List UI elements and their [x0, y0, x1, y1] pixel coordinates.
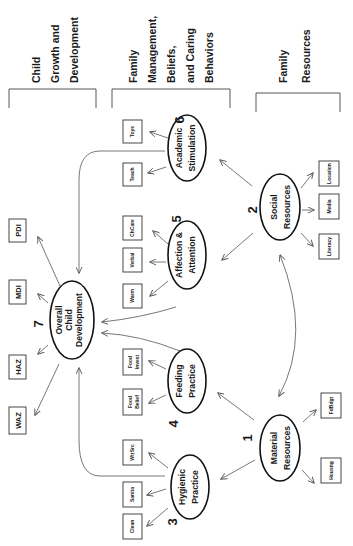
arrow-material-to-housng: [302, 470, 314, 483]
indicator-label: Warm: [129, 289, 135, 303]
indicator-label: ChCare: [129, 219, 135, 237]
indicator-label: Belief: [134, 395, 140, 409]
indicator-box-media: Media: [319, 194, 339, 219]
header-child-growth: Child Growth and Development: [30, 17, 80, 83]
arrow-social-to-location: [301, 173, 313, 188]
arrow-academic-to-overall: [79, 151, 165, 273]
arrow-social-material-bidirectional: [279, 255, 296, 396]
arrow-social-to-affection: [222, 233, 253, 260]
node-feeding-practice: Feeding Practice 4: [166, 349, 206, 428]
indicator-box-housng: Housng: [321, 458, 341, 483]
header-line: Beliefs,: [165, 46, 177, 83]
arrow-hygienic-to-overall: [79, 368, 165, 476]
arrow-affection-to-overall: [102, 307, 176, 322]
header-line: Child: [30, 57, 42, 83]
indicator-label: Teach: [129, 167, 135, 181]
indicator-label: Literacy: [326, 237, 332, 256]
indicator-label: Housng: [328, 461, 334, 480]
outcome-label: MDI: [14, 285, 23, 299]
arrow-feeding-to-food-belief: [149, 395, 166, 403]
node-label: Social: [269, 194, 279, 219]
indicator-box-fdbdgt: FdBdgt: [321, 393, 341, 418]
node-overall-child-development: Overall Child Development 7: [31, 281, 94, 359]
indicator-label: FdBdgt: [328, 396, 334, 414]
indicator-label: Clean: [129, 520, 135, 534]
arrow-overall-to-haz: [38, 345, 48, 354]
indicator-box-literacy: Literacy: [319, 234, 339, 259]
arrow-social-to-academic: [220, 160, 252, 186]
node-number: 1: [240, 434, 255, 441]
arrow-academic-to-teach: [148, 167, 166, 173]
node-label: Stimulation: [187, 125, 197, 172]
header-line: Development: [68, 17, 80, 83]
header-line: and Caring: [184, 28, 196, 83]
bracket-family-management: [112, 89, 230, 108]
indicator-box-wtrsrc: WtrSrc: [123, 440, 142, 465]
node-label: Material: [269, 432, 279, 464]
node-label: Practice: [190, 470, 200, 504]
node-hygienic-practice: Hygienic Practice 3: [165, 455, 209, 526]
arrow-hygienic-to-sanita: [147, 489, 166, 495]
indicator-box-verbal: Verbal: [123, 248, 142, 272]
arrow-material-to-fdbdgt: [303, 410, 316, 422]
indicator-box-location: Location: [319, 161, 339, 186]
indicator-box-food-invest: Food Invest: [123, 349, 142, 375]
indicator-box-toys: Toys: [123, 120, 142, 143]
node-label: Practice: [187, 364, 197, 398]
arrow-hygienic-to-wtrsrc: [149, 453, 168, 468]
node-label: Attention: [187, 236, 197, 274]
node-number: 6: [172, 116, 187, 123]
outcome-label: PDI: [14, 224, 23, 237]
arrow-social-to-literacy: [301, 233, 313, 246]
header-line: Family: [127, 50, 139, 83]
header-family-resources: Family Resources: [277, 29, 312, 83]
header-line: Resources: [300, 29, 312, 83]
outcome-label: HAZ: [14, 359, 23, 375]
header-family-management: Family Management, Beliefs, and Caring B…: [127, 16, 215, 83]
bracket-child: [9, 89, 96, 108]
indicator-label: Food: [127, 396, 133, 408]
node-number: 4: [166, 420, 181, 428]
arrow-overall-to-pdi: [38, 237, 60, 286]
header-line: Behaviors: [203, 32, 215, 83]
indicator-box-teach: Teach: [123, 163, 142, 186]
bracket-family-resources: [256, 93, 340, 112]
arrow-feeding-to-food-invest: [149, 361, 166, 369]
outcome-box-mdi: MDI: [9, 280, 26, 304]
header-line: Growth and: [49, 25, 61, 83]
conceptual-framework-diagram: Child Growth and Development Family Mana…: [0, 0, 353, 546]
node-label: Overall: [54, 305, 64, 334]
indicator-box-warm: Warm: [123, 284, 142, 308]
arrow-material-to-hygienic: [221, 460, 255, 479]
arrow-material-to-feeding: [218, 393, 254, 420]
indicator-label: Verbal: [129, 252, 135, 268]
arrow-academic-to-toys: [150, 132, 168, 138]
arrow-affection-to-warm: [150, 281, 168, 296]
indicator-box-chcare: ChCare: [123, 216, 142, 240]
arrow-overall-to-mdi: [38, 294, 48, 303]
node-label: Academic: [174, 127, 184, 168]
node-number: 3: [165, 518, 180, 525]
node-label: Hygienic: [177, 469, 187, 505]
indicator-label: Food: [127, 356, 133, 368]
indicator-box-clean: Clean: [123, 514, 142, 539]
node-material-resources: Material Resources 1: [240, 415, 300, 481]
indicator-label: Media: [326, 199, 332, 213]
node-social-resources: Social Resources 2: [245, 174, 300, 240]
indicator-label: WtrSrc: [129, 444, 135, 461]
arrow-overall-to-waz: [35, 364, 59, 415]
node-label: Development: [74, 293, 84, 347]
node-label: Affection &: [174, 232, 184, 278]
node-academic-stimulation: Academic Stimulation 6: [168, 115, 206, 181]
node-label: Feeding: [174, 365, 184, 398]
outcome-box-waz: WAZ: [9, 407, 26, 434]
node-affection-attention: Affection & Attention 5: [168, 215, 206, 289]
node-label: Resources: [282, 185, 292, 229]
outcome-box-pdi: PDI: [9, 219, 26, 242]
arrow-affection-to-chcare: [153, 231, 168, 244]
node-number: 7: [31, 320, 46, 327]
node-number: 2: [245, 206, 260, 213]
outcome-label: WAZ: [14, 412, 23, 429]
node-label: Resources: [282, 426, 292, 470]
indicator-box-food-belief: Food Belief: [123, 389, 142, 415]
